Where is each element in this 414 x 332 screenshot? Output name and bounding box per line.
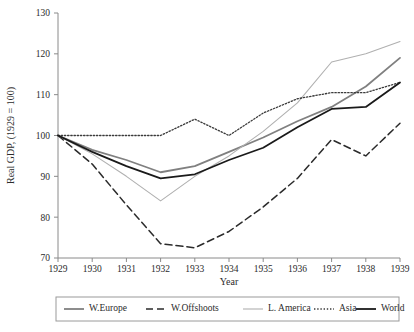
legend-item-label: Asia (339, 303, 357, 313)
x-tick-label: 1935 (254, 264, 273, 274)
x-tick-label: 1934 (220, 264, 239, 274)
y-axis-group: 708090100110120130 Real GDP, (1929 = 100… (5, 8, 58, 263)
x-tick-label: 1936 (288, 264, 307, 274)
x-tick-label: 1930 (83, 264, 102, 274)
y-axis-title: Real GDP, (1929 = 100) (5, 87, 17, 184)
x-tick-label: 1933 (185, 264, 204, 274)
y-tick-label: 90 (41, 172, 51, 182)
x-axis-group: 1929193019311932193319341935193619371938… (49, 258, 410, 287)
y-tick-label: 120 (36, 49, 51, 59)
chart-container: 708090100110120130 Real GDP, (1929 = 100… (0, 0, 414, 332)
gdp-line-chart: 708090100110120130 Real GDP, (1929 = 100… (0, 0, 414, 332)
legend-item-label: L. America (268, 303, 312, 313)
series-lines (58, 42, 400, 248)
y-axis-ticks: 708090100110120130 (36, 8, 58, 263)
x-tick-label: 1938 (356, 264, 375, 274)
y-tick-label: 130 (36, 8, 51, 18)
y-tick-label: 100 (36, 131, 51, 141)
x-tick-label: 1939 (391, 264, 410, 274)
series-line-asia (58, 82, 400, 135)
x-tick-label: 1931 (117, 264, 136, 274)
legend: W.EuropeW.OffshootsL. AmericaAsiaWorld (56, 297, 405, 321)
series-line-w-offshoots (58, 123, 400, 248)
x-tick-label: 1937 (322, 264, 341, 274)
x-axis-ticks: 1929193019311932193319341935193619371938… (49, 258, 410, 274)
x-tick-label: 1932 (151, 264, 170, 274)
legend-item-label: World (381, 303, 405, 313)
y-tick-label: 80 (41, 213, 51, 223)
series-line-w-europe (58, 58, 400, 172)
legend-item-label: W.Offshoots (171, 303, 219, 313)
x-axis-title: Year (220, 276, 239, 287)
y-tick-label: 70 (41, 253, 51, 263)
x-tick-label: 1929 (49, 264, 68, 274)
series-line-l-america (58, 42, 400, 201)
legend-item-label: W.Europe (89, 303, 127, 313)
y-tick-label: 110 (36, 90, 50, 100)
